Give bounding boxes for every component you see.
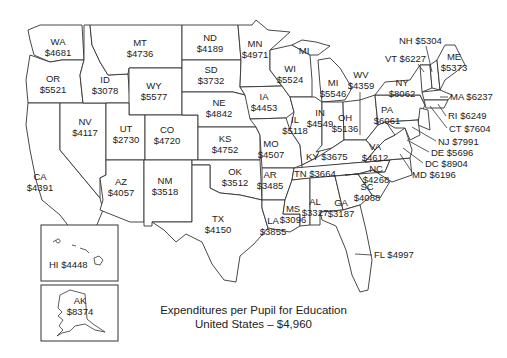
- label-wv: WV$4359: [348, 69, 374, 91]
- leader-ct: [430, 106, 447, 128]
- label-ky: KY $3675: [306, 151, 348, 162]
- label-mi-upper: MI: [299, 45, 310, 56]
- label-fl: FL $4997: [374, 249, 414, 260]
- label-ri: RI $6249: [448, 110, 487, 121]
- hawaii-inset: HI $4448: [41, 225, 118, 281]
- label-hi: HI $4448: [49, 259, 88, 270]
- label-de: DE $5696: [431, 147, 473, 158]
- map-subtitle: United States – $4,960: [0, 318, 507, 330]
- label-vt: VT $6227: [385, 53, 426, 64]
- label-ct: CT $7604: [449, 123, 491, 134]
- map-title: Expenditures per Pupil for Education: [0, 304, 507, 316]
- label-dc: DC $8904: [425, 158, 468, 169]
- label-nh: NH $5304: [399, 35, 442, 46]
- label-ma: MA $6237: [450, 91, 493, 102]
- state-nj: [418, 108, 430, 130]
- label-md: MD $6196: [412, 169, 456, 180]
- state-ct-ri: [424, 100, 448, 108]
- state-ma: [422, 90, 452, 100]
- label-nj: NJ $7991: [438, 136, 479, 147]
- label-tn: TN $3664: [294, 168, 336, 179]
